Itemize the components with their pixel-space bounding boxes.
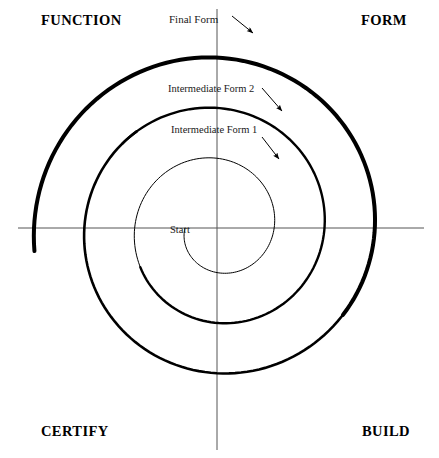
callout-label-start: Start [170, 224, 190, 235]
quadrant-label-function: FUNCTION [41, 12, 122, 29]
callout-label-intermediate-form-1: Intermediate Form 1 [171, 124, 257, 135]
arrow-intermediate-form-2 [262, 88, 282, 111]
spiral-curve [34, 57, 375, 373]
spiral-segment-final-form [34, 57, 375, 314]
spiral-segment-intermediate-form-2 [84, 131, 356, 373]
callout-label-final-form: Final Form [169, 13, 218, 25]
quadrant-label-certify: CERTIFY [41, 423, 109, 440]
spiral-segment-intermediate-form-1 [122, 108, 325, 324]
spiral-canvas [0, 0, 439, 458]
arrow-intermediate-form-1 [262, 137, 279, 159]
spiral-segment-start-turn [134, 158, 274, 279]
spiral-diagram: FUNCTION FORM CERTIFY BUILD Final Form I… [0, 0, 439, 458]
axes-group [18, 9, 424, 450]
quadrant-label-form: FORM [361, 12, 407, 29]
callout-label-intermediate-form-2: Intermediate Form 2 [168, 83, 254, 94]
quadrant-label-build: BUILD [362, 423, 410, 440]
arrow-final-form [232, 16, 253, 33]
